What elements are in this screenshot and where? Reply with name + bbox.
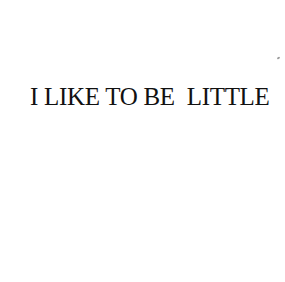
headline-text: I LIKE TO BE LITTLE: [30, 82, 270, 112]
image-canvas: I LIKE TO BE LITTLE: [0, 0, 285, 282]
ink-speck: [277, 56, 281, 59]
